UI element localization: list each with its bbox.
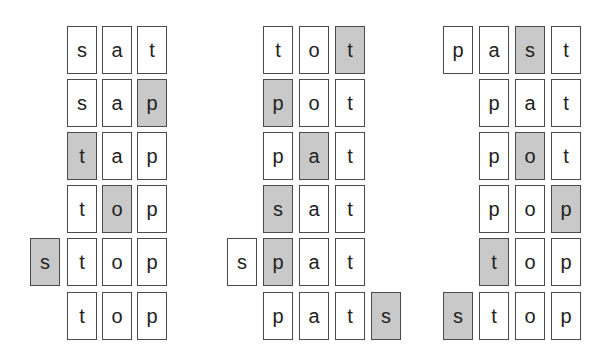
letter-tile-changed: t: [67, 132, 97, 180]
letter-tile: a: [299, 185, 329, 233]
letter-tile: p: [137, 132, 167, 180]
letter-tile-changed: o: [102, 185, 132, 233]
letter-tile: p: [263, 292, 293, 340]
letter-tile: o: [515, 238, 545, 286]
letter-tile: t: [137, 26, 167, 74]
letter-tile: t: [335, 238, 365, 286]
letter-tile-changed: p: [263, 79, 293, 127]
letter-tile: a: [299, 238, 329, 286]
letter-tile: a: [479, 26, 509, 74]
letter-tile: t: [551, 132, 581, 180]
letter-tile: p: [443, 26, 473, 74]
letter-tile: p: [137, 292, 167, 340]
letter-tile: p: [263, 132, 293, 180]
letter-tile: t: [67, 238, 97, 286]
letter-tile: t: [551, 79, 581, 127]
letter-tile: o: [102, 292, 132, 340]
letter-tile: a: [299, 292, 329, 340]
letter-tile: s: [67, 79, 97, 127]
letter-tile: o: [299, 79, 329, 127]
letter-tile-changed: p: [551, 185, 581, 233]
letter-tile: t: [335, 79, 365, 127]
letter-tile: t: [67, 292, 97, 340]
letter-tile: p: [479, 79, 509, 127]
letter-tile-changed: p: [263, 238, 293, 286]
letter-tile: t: [551, 26, 581, 74]
letter-tile: o: [515, 292, 545, 340]
letter-tile: a: [515, 79, 545, 127]
letter-tile: o: [299, 26, 329, 74]
letter-tile-changed: o: [515, 132, 545, 180]
letter-tile: p: [137, 185, 167, 233]
letter-tile: s: [67, 26, 97, 74]
letter-tile: t: [335, 185, 365, 233]
letter-tile: p: [551, 292, 581, 340]
letter-tile: t: [479, 292, 509, 340]
letter-tile-changed: t: [479, 238, 509, 286]
letter-tile-changed: s: [263, 185, 293, 233]
letter-tile: a: [102, 132, 132, 180]
letter-tile-diagram: s a t s a p t a p t o p s t o p t o p: [0, 0, 610, 357]
letter-tile: t: [67, 185, 97, 233]
letter-tile: p: [479, 185, 509, 233]
letter-tile: a: [102, 26, 132, 74]
letter-tile-changed: s: [30, 238, 60, 286]
letter-tile: t: [335, 292, 365, 340]
letter-tile-changed: s: [371, 292, 401, 340]
letter-tile-changed: s: [515, 26, 545, 74]
letter-tile: s: [227, 238, 257, 286]
letter-tile: t: [335, 132, 365, 180]
letter-tile-changed: a: [299, 132, 329, 180]
letter-tile: t: [263, 26, 293, 74]
letter-tile: o: [102, 238, 132, 286]
letter-tile-changed: s: [443, 292, 473, 340]
letter-tile-changed: t: [335, 26, 365, 74]
letter-tile-changed: p: [137, 79, 167, 127]
letter-tile: o: [515, 185, 545, 233]
letter-tile: p: [137, 238, 167, 286]
letter-tile: a: [102, 79, 132, 127]
letter-tile: p: [479, 132, 509, 180]
letter-tile: p: [551, 238, 581, 286]
